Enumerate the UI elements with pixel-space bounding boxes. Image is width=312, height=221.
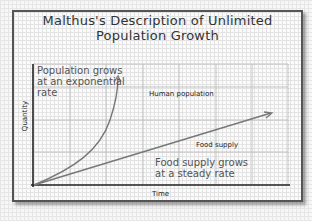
human-population-label: Human population	[149, 90, 214, 98]
food-note-line-2: at a steady rate	[155, 168, 248, 179]
pop-note-line-1: Population grows	[37, 65, 125, 76]
population-annotation: Population grows at an exponential rate	[37, 65, 125, 98]
plot-area	[0, 0, 312, 221]
x-axis-label: Time	[152, 190, 169, 198]
food-note-line-1: Food supply grows	[155, 157, 248, 168]
food-supply-label: Food supply	[196, 141, 238, 149]
pop-note-line-2: at an exponential	[37, 76, 125, 87]
pop-note-line-3: rate	[37, 87, 125, 98]
food-annotation: Food supply grows at a steady rate	[155, 157, 248, 179]
y-axis-label: Quantity	[21, 101, 29, 131]
